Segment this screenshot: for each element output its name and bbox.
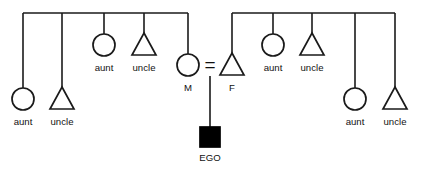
kinship-diagram-canvas: aunt uncle aunt uncle M = — [0, 0, 421, 173]
kinship-diagram-root: aunt uncle aunt uncle M = — [0, 0, 421, 173]
person-label-paternal-uncle-1: uncle — [301, 62, 324, 73]
person-symbol-paternal-aunt-1[interactable] — [262, 34, 284, 56]
person-symbol-mother[interactable] — [177, 54, 199, 76]
person-label-mother: M — [184, 82, 192, 93]
person-label-paternal-aunt-2: aunt — [346, 116, 365, 127]
parents-marriage-group: = — [204, 54, 215, 127]
ego-group: EGO — [199, 127, 220, 163]
person-symbol-father[interactable] — [220, 53, 244, 75]
person-label-maternal-aunt-1: aunt — [14, 116, 33, 127]
person-label-ego: EGO — [199, 152, 220, 163]
person-symbol-maternal-uncle-2[interactable] — [132, 33, 156, 55]
person-symbol-maternal-aunt-2[interactable] — [93, 34, 115, 56]
maternal-sibship-group: aunt uncle aunt uncle M — [12, 13, 199, 127]
person-label-maternal-uncle-1: uncle — [51, 116, 74, 127]
paternal-sibship-group: F aunt uncle aunt uncle — [220, 13, 407, 127]
person-symbol-maternal-uncle-1[interactable] — [50, 87, 74, 109]
person-symbol-paternal-uncle-1[interactable] — [300, 33, 324, 55]
person-label-maternal-uncle-2: uncle — [133, 62, 156, 73]
marriage-equals-sign: = — [204, 54, 215, 75]
person-label-paternal-aunt-1: aunt — [264, 62, 283, 73]
person-symbol-paternal-uncle-2[interactable] — [383, 87, 407, 109]
person-label-paternal-uncle-2: uncle — [384, 116, 407, 127]
person-label-father: F — [229, 82, 235, 93]
person-label-maternal-aunt-2: aunt — [95, 62, 114, 73]
person-symbol-maternal-aunt-1[interactable] — [12, 88, 34, 110]
person-symbol-paternal-aunt-2[interactable] — [344, 88, 366, 110]
person-symbol-ego[interactable] — [200, 127, 220, 147]
